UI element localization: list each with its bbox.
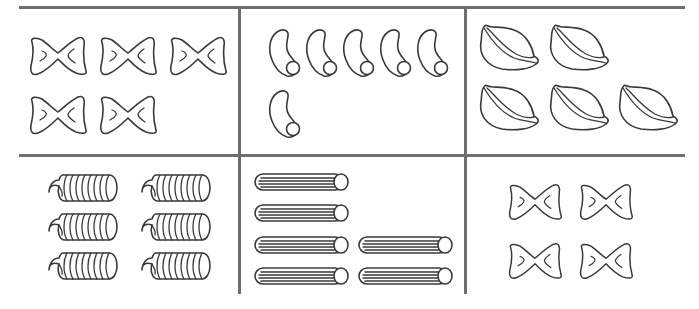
shell-pasta-icon bbox=[478, 84, 540, 132]
shell-pasta-icon bbox=[548, 24, 610, 72]
macaroni-pasta-icon bbox=[304, 28, 340, 78]
penne-pasta-icon bbox=[253, 265, 351, 287]
grid-middle-divider bbox=[19, 154, 685, 157]
bow-tie-pasta-icon bbox=[507, 241, 563, 281]
bow-tie-pasta-icon bbox=[98, 36, 158, 76]
macaroni-pasta-icon bbox=[341, 28, 377, 78]
macaroni-pasta-icon bbox=[415, 28, 451, 78]
shell-pasta-icon bbox=[617, 84, 679, 132]
penne-pasta-icon bbox=[253, 171, 351, 193]
grid-top-border bbox=[19, 6, 685, 9]
bow-tie-pasta-icon bbox=[98, 95, 158, 135]
grid-column-divider-2 bbox=[464, 6, 467, 294]
shell-pasta-icon bbox=[548, 84, 610, 132]
penne-pasta-icon bbox=[253, 202, 351, 224]
bow-tie-pasta-icon bbox=[507, 182, 563, 222]
penne-pasta-icon bbox=[357, 265, 455, 287]
fusilli-pasta-icon bbox=[140, 250, 212, 282]
bow-tie-pasta-icon bbox=[578, 241, 634, 281]
grid-column-divider-1 bbox=[238, 6, 241, 294]
macaroni-pasta-icon bbox=[267, 89, 303, 139]
bow-tie-pasta-icon bbox=[28, 95, 88, 135]
bow-tie-pasta-icon bbox=[28, 36, 88, 76]
macaroni-pasta-icon bbox=[267, 28, 303, 78]
penne-pasta-icon bbox=[357, 234, 455, 256]
fusilli-pasta-icon bbox=[47, 211, 119, 243]
macaroni-pasta-icon bbox=[378, 28, 414, 78]
shell-pasta-icon bbox=[478, 24, 540, 72]
fusilli-pasta-icon bbox=[47, 172, 119, 204]
penne-pasta-icon bbox=[253, 234, 351, 256]
fusilli-pasta-icon bbox=[47, 250, 119, 282]
bow-tie-pasta-icon bbox=[168, 36, 228, 76]
bow-tie-pasta-icon bbox=[578, 182, 634, 222]
fusilli-pasta-icon bbox=[140, 211, 212, 243]
fusilli-pasta-icon bbox=[140, 172, 212, 204]
